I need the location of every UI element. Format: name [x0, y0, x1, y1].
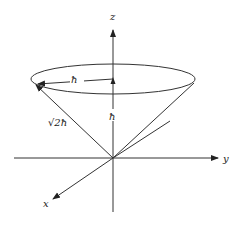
x-axis-label: x	[43, 198, 49, 209]
y-axis-label: y	[222, 153, 229, 164]
angular-momentum-cone-diagram: z y x ħ ħ √2ħ	[0, 0, 242, 225]
cone-inner-line	[113, 121, 170, 158]
radius-label: ħ	[71, 74, 77, 85]
magnitude-label: √2ħ	[48, 117, 67, 128]
z-axis-label: z	[109, 11, 116, 22]
x-axis	[53, 158, 113, 199]
z-projection-arrowhead-icon	[111, 77, 116, 84]
z-projection-label: ħ	[109, 111, 115, 122]
